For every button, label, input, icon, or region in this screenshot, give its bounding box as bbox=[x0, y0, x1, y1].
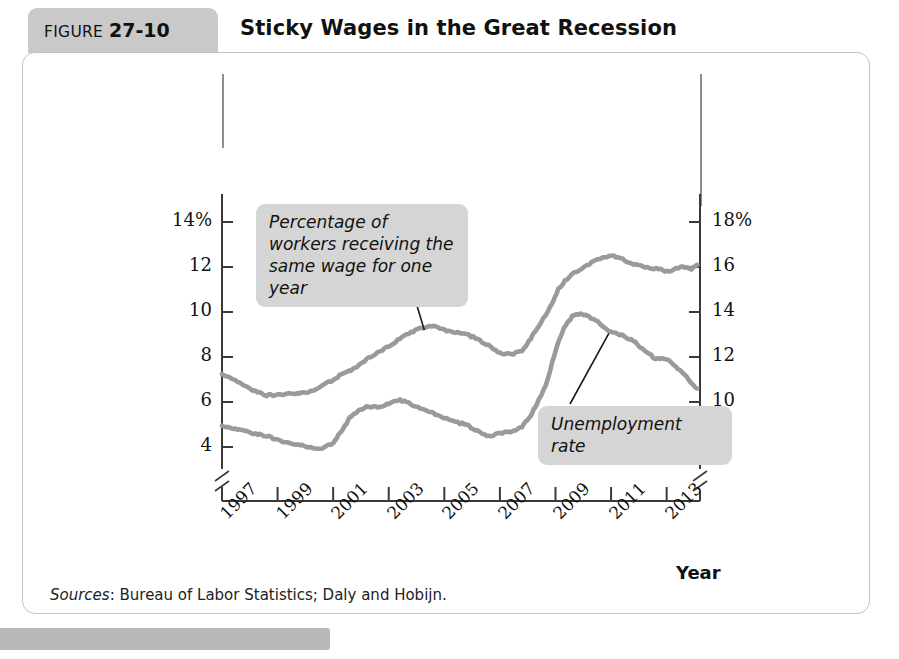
y-axis-left-tick-6: 6 bbox=[158, 389, 212, 410]
sources-label: Sources bbox=[50, 586, 110, 604]
figure-header: FIGURE 27-10 Sticky Wages in the Great R… bbox=[0, 0, 899, 56]
y-axis-left-tick-10: 10 bbox=[158, 299, 212, 320]
annotation-sticky-wages: Percentage of workers receiving the same… bbox=[256, 204, 468, 307]
y-axis-right-tick-14: 14 bbox=[712, 299, 772, 320]
y-axis-left-title-rule bbox=[222, 74, 224, 148]
y-axis-left-tick-12: 12 bbox=[158, 254, 212, 275]
figure-number: 27-10 bbox=[109, 19, 170, 41]
y-axis-right-tick-18pct: 18% bbox=[712, 209, 772, 230]
y-axis-right-title-rule bbox=[700, 74, 702, 206]
page-title: Sticky Wages in the Great Recession bbox=[240, 16, 677, 40]
y-axis-left-tick-8: 8 bbox=[158, 344, 212, 365]
annotation-unemployment-rate: Unemployment rate bbox=[538, 406, 732, 465]
sources-text: : Bureau of Labor Statistics; Daly and H… bbox=[110, 586, 447, 604]
sources-note: Sources: Bureau of Labor Statistics; Dal… bbox=[50, 586, 447, 604]
figure-word: FIGURE bbox=[44, 23, 103, 41]
figure-panel bbox=[22, 52, 870, 614]
figure-number-text: FIGURE 27-10 bbox=[44, 19, 214, 41]
y-axis-right-tick-16: 16 bbox=[712, 254, 772, 275]
y-axis-left-tick-4: 4 bbox=[158, 434, 212, 455]
y-axis-right-tick-12: 12 bbox=[712, 344, 772, 365]
y-axis-left-tick-14pct: 14% bbox=[158, 209, 212, 230]
bottom-accent-bar bbox=[0, 628, 330, 650]
x-axis-title: Year bbox=[676, 562, 721, 583]
